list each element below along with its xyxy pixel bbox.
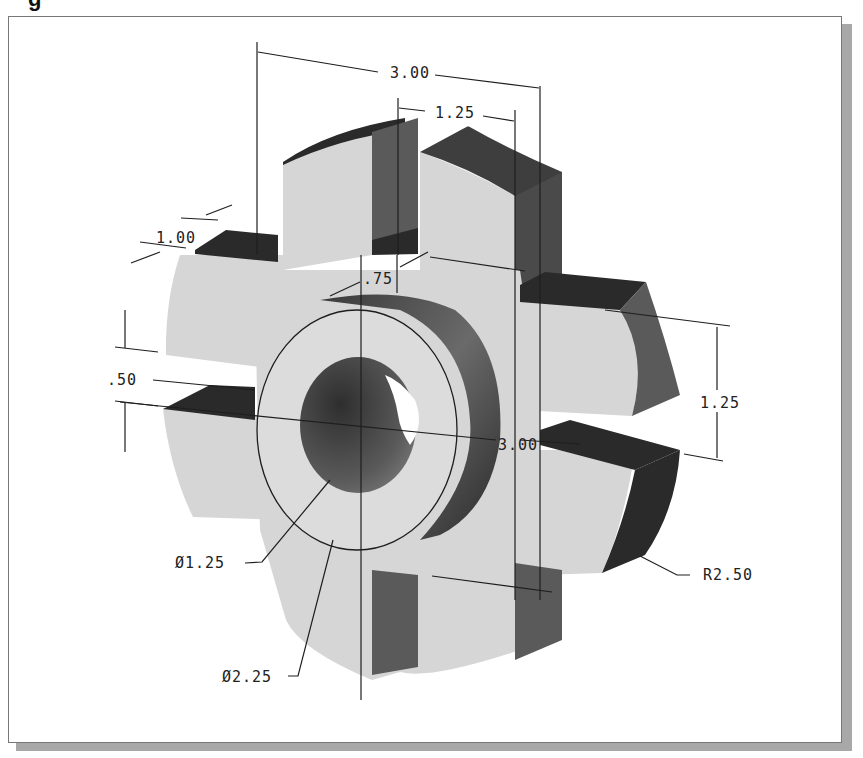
cad-drawing: 3.00 1.25 1.00 .75 .50 1.25 3.00 Ø1.25 Ø…: [0, 0, 863, 758]
dim-hub-depth: .75: [363, 270, 393, 288]
dim-bore-diameter: Ø1.25: [175, 554, 225, 572]
dim-flange-thickness: 1.00: [156, 229, 196, 247]
dim-hub-diameter: Ø2.25: [222, 668, 272, 686]
bottom-right-slot-face: [515, 563, 562, 660]
right-upper-arm-face: [520, 300, 638, 416]
bore: [300, 357, 416, 493]
dim-slot-width-top: 1.25: [435, 104, 475, 122]
bottom-left-slot-face: [372, 570, 418, 675]
top-left-arm-face: [283, 132, 372, 270]
dim-slot-gap: .50: [107, 371, 137, 389]
dim-slot-height-right: 1.25: [700, 394, 740, 412]
dim-outer-radius: R2.50: [703, 566, 753, 584]
dim-overall-width: 3.00: [390, 64, 430, 82]
dim-overall-height: 3.00: [498, 436, 538, 454]
